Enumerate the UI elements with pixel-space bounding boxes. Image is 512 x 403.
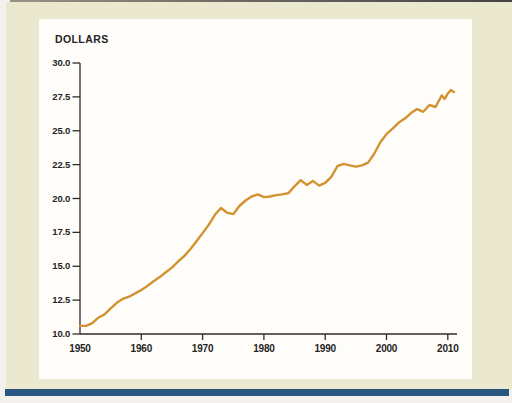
y-tick-label: 30.0	[38, 57, 70, 68]
y-tick-label: 12.5	[38, 294, 70, 305]
y-tick-label: 17.5	[38, 226, 70, 237]
y-tick-label: 27.5	[38, 91, 70, 102]
x-tick-label: 1970	[183, 343, 223, 354]
y-tick-label: 10.0	[38, 328, 70, 339]
y-tick-label: 15.0	[38, 260, 70, 271]
x-tick-label: 2010	[428, 343, 468, 354]
x-tick-label: 1990	[305, 343, 345, 354]
figure-canvas: DOLLARS 30.027.525.022.520.017.515.012.5…	[0, 0, 512, 403]
y-tick-label: 25.0	[38, 125, 70, 136]
x-tick-label: 1980	[244, 343, 284, 354]
y-tick-label: 22.5	[38, 159, 70, 170]
y-tick-label: 20.0	[38, 193, 70, 204]
data-line-dollars	[80, 90, 454, 326]
x-tick-label: 1960	[121, 343, 161, 354]
x-tick-label: 2000	[367, 343, 407, 354]
x-tick-label: 1950	[60, 343, 100, 354]
